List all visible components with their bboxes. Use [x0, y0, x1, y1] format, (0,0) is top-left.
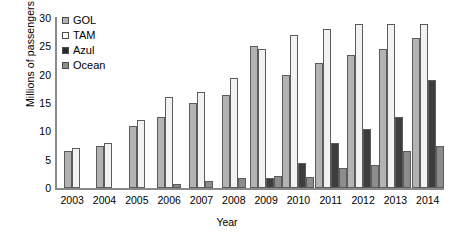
legend-label: GOL — [73, 15, 96, 26]
bar-ocean-2009 — [274, 176, 282, 188]
legend-item-ocean: Ocean — [62, 58, 105, 72]
plot-area: 051015202530 200320042005200620072008200… — [56, 18, 444, 188]
y-tick-label: 25 — [39, 40, 51, 52]
x-tick-label: 2005 — [125, 194, 148, 206]
bar-groups: 2003200420052006200720082009201020112012… — [56, 18, 444, 188]
bar-group: 2006 — [153, 18, 185, 188]
bar-azul-2013 — [395, 117, 403, 188]
bar-gol-2003 — [64, 151, 72, 188]
legend-item-gol: GOL — [62, 13, 105, 27]
bar-ocean-2008 — [238, 178, 246, 188]
bar-gol-2010 — [282, 75, 290, 188]
legend-item-tam: TAM — [62, 28, 105, 42]
bar-ocean-2011 — [339, 168, 347, 188]
x-tick-label: 2009 — [254, 194, 277, 206]
bar-tam-2008 — [230, 78, 238, 189]
bar-group: 2012 — [347, 18, 379, 188]
bar-tam-2007 — [197, 92, 205, 188]
x-tick-label: 2003 — [60, 194, 83, 206]
bar-azul-2010 — [298, 163, 306, 189]
y-tick-label: 10 — [39, 125, 51, 137]
legend-label: Ocean — [73, 60, 105, 71]
bar-tam-2003 — [72, 148, 80, 188]
y-axis-label: Millions of passengers — [24, 0, 36, 139]
bar-group: 2005 — [121, 18, 153, 188]
bar-group: 2008 — [218, 18, 250, 188]
bar-tam-2013 — [387, 24, 395, 188]
bar-chart: Millions of passengers Year 051015202530… — [0, 0, 454, 239]
legend-swatch-icon — [62, 62, 69, 69]
bar-gol-2012 — [347, 55, 355, 188]
x-tick-label: 2011 — [319, 194, 342, 206]
x-tick-label: 2014 — [416, 194, 439, 206]
bar-tam-2005 — [137, 120, 145, 188]
bar-gol-2008 — [222, 95, 230, 189]
bar-azul-2011 — [331, 143, 339, 188]
bar-ocean-2010 — [306, 177, 314, 188]
chart-legend: GOLTAMAzulOcean — [62, 13, 105, 72]
bar-ocean-2013 — [403, 151, 411, 188]
legend-item-azul: Azul — [62, 43, 105, 57]
legend-label: TAM — [73, 30, 95, 41]
x-axis-line — [55, 188, 444, 190]
x-tick-label: 2013 — [384, 194, 407, 206]
bar-group: 2009 — [250, 18, 282, 188]
bar-ocean-2014 — [436, 146, 444, 189]
bar-ocean-2007 — [205, 181, 213, 188]
bar-tam-2009 — [258, 49, 266, 188]
y-tick-label: 0 — [45, 182, 51, 194]
y-tick-label: 5 — [45, 154, 51, 166]
y-tick-label: 30 — [39, 12, 51, 24]
x-tick-label: 2008 — [222, 194, 245, 206]
bar-ocean-2012 — [371, 165, 379, 188]
bar-tam-2012 — [355, 24, 363, 188]
bar-tam-2006 — [165, 97, 173, 188]
x-tick-label: 2012 — [351, 194, 374, 206]
legend-swatch-icon — [62, 47, 69, 54]
x-axis-label: Year — [0, 216, 454, 228]
bar-azul-2012 — [363, 129, 371, 189]
bar-gol-2011 — [315, 63, 323, 188]
bar-gol-2005 — [129, 126, 137, 188]
bar-azul-2014 — [428, 80, 436, 188]
bar-gol-2009 — [250, 46, 258, 188]
x-tick-label: 2007 — [190, 194, 213, 206]
bar-group: 2010 — [282, 18, 314, 188]
bar-group: 2013 — [379, 18, 411, 188]
bar-gol-2013 — [379, 49, 387, 188]
bar-tam-2004 — [104, 143, 112, 188]
bar-azul-2009 — [266, 178, 274, 188]
x-tick-label: 2006 — [157, 194, 180, 206]
bar-tam-2011 — [323, 29, 331, 188]
x-tick-label: 2004 — [93, 194, 116, 206]
bar-group: 2007 — [185, 18, 217, 188]
bar-gol-2007 — [189, 103, 197, 188]
y-tick-label: 20 — [39, 69, 51, 81]
bar-ocean-2006 — [173, 184, 181, 188]
bar-tam-2010 — [290, 35, 298, 188]
legend-swatch-icon — [62, 17, 69, 24]
bar-gol-2014 — [412, 38, 420, 188]
bar-group: 2014 — [412, 18, 444, 188]
bar-tam-2014 — [420, 24, 428, 188]
bar-gol-2004 — [96, 146, 104, 189]
bar-group: 2011 — [315, 18, 347, 188]
legend-swatch-icon — [62, 32, 69, 39]
legend-label: Azul — [73, 45, 94, 56]
y-tick-label: 15 — [39, 97, 51, 109]
x-tick-label: 2010 — [287, 194, 310, 206]
bar-gol-2006 — [157, 117, 165, 188]
